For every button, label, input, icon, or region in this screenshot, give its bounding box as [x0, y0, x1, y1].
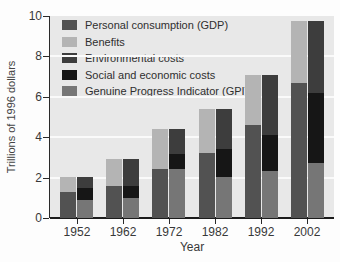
- gpi-bar-1982: [216, 16, 232, 218]
- gpi-bar-1972: [169, 16, 185, 218]
- y-tick-10: [43, 16, 49, 17]
- segment-genuine-progress-indicator-gpi-2002: [308, 163, 324, 218]
- segment-genuine-progress-indicator-gpi-1962: [123, 198, 139, 218]
- gdp-bar-1982: [199, 16, 215, 218]
- x-tick-1952: [77, 219, 78, 224]
- y-tick-label-10: 10: [20, 9, 42, 23]
- segment-benefits-1982: [199, 109, 215, 153]
- bar-group-1992: [245, 16, 278, 218]
- segment-social-and-economic-costs-2002: [308, 93, 324, 164]
- segment-environmental-costs-1982: [216, 109, 232, 149]
- x-tick-1962: [123, 219, 124, 224]
- y-tick-8: [43, 56, 49, 57]
- x-tick-label-2002: 2002: [285, 225, 329, 239]
- y-tick-label-8: 8: [20, 49, 42, 63]
- x-tick-1982: [215, 219, 216, 224]
- bar-group-2002: [291, 16, 324, 218]
- segment-personal-consumption-gdp-2002: [291, 83, 307, 218]
- segment-personal-consumption-gdp-1982: [199, 153, 215, 218]
- segment-genuine-progress-indicator-gpi-1952: [77, 200, 93, 218]
- y-tick-label-2: 2: [20, 171, 42, 185]
- segment-benefits-2002: [291, 21, 307, 83]
- segment-environmental-costs-1952: [77, 177, 93, 188]
- x-tick-label-1982: 1982: [193, 225, 237, 239]
- gdp-bar-1992: [245, 16, 261, 218]
- x-tick-1992: [261, 219, 262, 224]
- segment-personal-consumption-gdp-1972: [152, 169, 168, 218]
- segment-personal-consumption-gdp-1992: [245, 125, 261, 218]
- y-tick-6: [43, 97, 49, 98]
- segment-benefits-1952: [60, 177, 76, 192]
- x-tick-label-1972: 1972: [147, 225, 191, 239]
- x-tick-2002: [307, 219, 308, 224]
- bar-group-1972: [152, 16, 185, 218]
- bar-group-1962: [106, 16, 139, 218]
- segment-social-and-economic-costs-1992: [262, 135, 278, 170]
- x-tick-label-1992: 1992: [239, 225, 283, 239]
- gpi-bar-1962: [123, 16, 139, 218]
- segment-social-and-economic-costs-1972: [169, 154, 185, 168]
- segment-personal-consumption-gdp-1962: [106, 186, 122, 218]
- y-axis-title: Trillions of 1996 dollars: [5, 51, 21, 183]
- plot-area: Personal consumption (GDP)BenefitsEnviro…: [50, 16, 334, 218]
- bar-group-1952: [60, 16, 93, 218]
- gdp-bar-1962: [106, 16, 122, 218]
- segment-social-and-economic-costs-1952: [77, 188, 93, 200]
- gpi-bar-1992: [262, 16, 278, 218]
- y-tick-2: [43, 178, 49, 179]
- y-tick-4: [43, 137, 49, 138]
- segment-social-and-economic-costs-1982: [216, 149, 232, 176]
- gpi-bar-2002: [308, 16, 324, 218]
- segment-social-and-economic-costs-1962: [123, 186, 139, 198]
- segment-genuine-progress-indicator-gpi-1982: [216, 177, 232, 218]
- y-tick-label-6: 6: [20, 90, 42, 104]
- gdp-bar-2002: [291, 16, 307, 218]
- segment-environmental-costs-1972: [169, 129, 185, 154]
- segment-genuine-progress-indicator-gpi-1992: [262, 171, 278, 218]
- segment-benefits-1962: [106, 159, 122, 185]
- segment-benefits-1972: [152, 129, 168, 168]
- segment-environmental-costs-1962: [123, 159, 139, 185]
- y-tick-0: [43, 218, 49, 219]
- segment-environmental-costs-2002: [308, 21, 324, 93]
- legend-label-social-and-economic-costs: Social and economic costs: [85, 69, 215, 81]
- gpi-vs-gdp-chart: Trillions of 1996 dollars Personal consu…: [0, 0, 340, 262]
- y-tick-label-0: 0: [20, 211, 42, 225]
- segment-benefits-1992: [245, 75, 261, 126]
- segment-environmental-costs-1992: [262, 75, 278, 136]
- gpi-bar-1952: [77, 16, 93, 218]
- x-tick-label-1962: 1962: [101, 225, 145, 239]
- bar-group-1982: [199, 16, 232, 218]
- x-axis-title: Year: [172, 240, 212, 254]
- x-tick-1972: [169, 219, 170, 224]
- segment-personal-consumption-gdp-1952: [60, 192, 76, 218]
- y-tick-label-4: 4: [20, 130, 42, 144]
- y-axis-line: [49, 16, 50, 218]
- gdp-bar-1972: [152, 16, 168, 218]
- segment-genuine-progress-indicator-gpi-1972: [169, 169, 185, 218]
- gdp-bar-1952: [60, 16, 76, 218]
- x-tick-label-1952: 1952: [55, 225, 99, 239]
